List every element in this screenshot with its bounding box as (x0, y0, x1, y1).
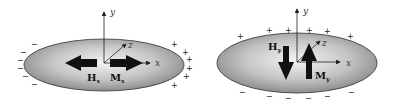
svg-text:−: − (266, 92, 273, 101)
svg-text:+: + (306, 26, 313, 35)
svg-text:−: − (285, 94, 292, 103)
svg-text:−: − (31, 40, 38, 49)
svg-text:−: − (22, 72, 29, 81)
demagnetization-diagram: y x z Hx Mx − − − − − − + + + + + + (0, 0, 396, 105)
right-y-label: y (302, 6, 309, 16)
svg-text:+: + (347, 32, 354, 41)
svg-text:+: + (285, 26, 292, 35)
svg-text:+: + (237, 32, 244, 41)
svg-text:+: + (186, 55, 193, 64)
left-x-label: x (155, 58, 160, 68)
svg-text:−: − (348, 88, 355, 97)
right-z-label: z (321, 38, 327, 48)
svg-text:+: + (171, 40, 178, 49)
svg-text:+: + (324, 27, 331, 36)
svg-text:−: − (324, 92, 331, 101)
left-z-label: z (127, 40, 133, 50)
svg-text:+: + (183, 72, 190, 81)
svg-text:+: + (266, 26, 273, 35)
right-x-label: x (346, 58, 351, 68)
svg-text:−: − (305, 94, 312, 103)
left-y-label: y (109, 7, 116, 17)
left-panel-x-magnetized: y x z Hx Mx − − − − − − + + + + + + (17, 7, 193, 91)
right-panel-y-magnetized: y x z Hy My + + + + + + − − − − − − (217, 6, 377, 103)
svg-text:+: + (171, 81, 178, 90)
svg-text:−: − (239, 88, 246, 97)
svg-text:−: − (31, 80, 38, 89)
